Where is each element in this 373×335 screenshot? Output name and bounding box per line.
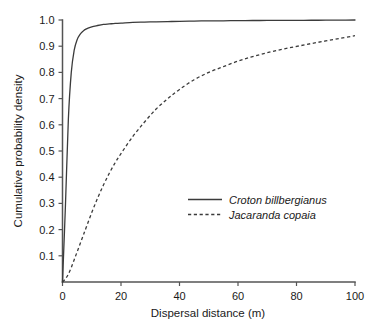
series-line-croton-billbergianus: [63, 20, 356, 282]
x-tick-labels: 020406080100: [59, 290, 364, 302]
y-tick-label: 0.8: [39, 66, 54, 78]
x-tick-label: 80: [290, 290, 302, 302]
y-tick-label: 0.3: [39, 197, 54, 209]
y-tick-label: 0.2: [39, 224, 54, 236]
x-tick-label: 20: [115, 290, 127, 302]
y-tick-labels: 0.10.20.30.40.50.60.70.80.91.0: [39, 14, 54, 262]
x-tick-label: 0: [59, 290, 65, 302]
x-tick-label: 100: [346, 290, 364, 302]
x-tick-label: 40: [173, 290, 185, 302]
cumulative-dispersal-chart: 0.10.20.30.40.50.60.70.80.91.0 Cumulativ…: [0, 0, 373, 335]
series-group: [63, 20, 356, 282]
y-tick-label: 0.4: [39, 171, 54, 183]
series-line-jacaranda-copaia: [63, 36, 356, 282]
legend-label-croton-billbergianus: Croton billbergianus: [229, 194, 327, 206]
legend-label-jacaranda-copaia: Jacaranda copaia: [228, 209, 316, 221]
y-axis-title: Cumulative probability density: [12, 74, 24, 227]
y-axis-group: 0.10.20.30.40.50.60.70.80.91.0 Cumulativ…: [12, 14, 63, 282]
y-tick-label: 0.6: [39, 119, 54, 131]
chart-canvas: 0.10.20.30.40.50.60.70.80.91.0 Cumulativ…: [0, 0, 373, 335]
y-tick-label: 0.5: [39, 145, 54, 157]
x-axis-group: 020406080100 Dispersal distance (m): [59, 282, 364, 319]
legend: Croton billbergianus Jacaranda copaia: [188, 194, 327, 221]
y-tick-label: 1.0: [39, 14, 54, 26]
x-tick-label: 60: [232, 290, 244, 302]
y-tick-label: 0.1: [39, 250, 54, 262]
y-tick-label: 0.9: [39, 40, 54, 52]
x-axis-title: Dispersal distance (m): [151, 307, 266, 319]
y-tick-label: 0.7: [39, 93, 54, 105]
